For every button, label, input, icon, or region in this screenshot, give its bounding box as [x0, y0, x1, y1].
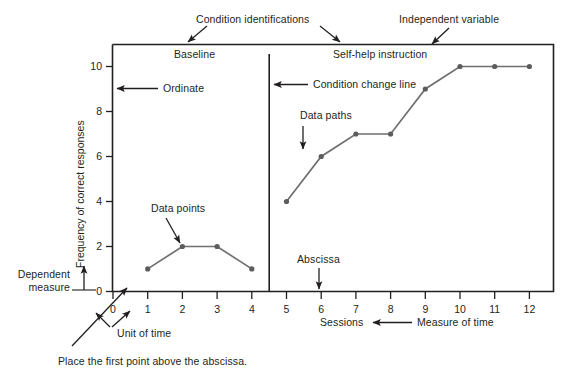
x-tick-label-11: 11 [485, 303, 505, 315]
data-point [527, 64, 532, 69]
x-tick-label-10: 10 [450, 303, 470, 315]
arrow-unit-of-time-left [96, 313, 110, 327]
annotation-condition-identifications: Condition identifications [196, 13, 309, 25]
data-point [180, 244, 185, 249]
annotation-abscissa: Abscissa [297, 253, 340, 265]
annotation-unit-of-time: Unit of time [117, 327, 171, 339]
data-point [249, 266, 254, 271]
x-tick-label-4: 4 [242, 303, 262, 315]
arrow-condition-id-right [320, 26, 340, 42]
y-tick-label-8: 8 [74, 105, 102, 117]
arrow-independent-variable [432, 28, 449, 44]
x-axis-ticks [113, 292, 529, 300]
annotation-independent-variable: Independent variable [399, 13, 499, 25]
annotation-data-paths: Data paths [300, 109, 352, 121]
arrow-data-points [166, 218, 180, 243]
x-tick-label-2: 2 [172, 303, 192, 315]
x-tick-label-12: 12 [519, 303, 539, 315]
y-tick-label-0: 0 [74, 285, 102, 297]
data-point [492, 64, 497, 69]
data-point [423, 86, 428, 91]
data-point [145, 266, 150, 271]
x-tick-label-9: 9 [415, 303, 435, 315]
phase-label-self-help-instruction: Self-help instruction [333, 48, 427, 60]
y-tick-label-10: 10 [74, 60, 102, 72]
data-point [457, 64, 462, 69]
data-point [388, 131, 393, 136]
y-tick-label-6: 6 [74, 150, 102, 162]
y-tick-label-4: 4 [74, 195, 102, 207]
dependent-measure-line-1: Dependent [18, 268, 70, 280]
phase-label-baseline: Baseline [174, 48, 215, 60]
figure-caption: Place the first point above the abscissa… [58, 355, 247, 367]
data-point [353, 131, 358, 136]
x-tick-label-7: 7 [346, 303, 366, 315]
x-axis-title: Sessions [320, 316, 363, 328]
x-tick-label-3: 3 [207, 303, 227, 315]
figure-container: Condition identifications Independent va… [0, 0, 577, 383]
data-path-baseline [148, 247, 252, 269]
x-tick-label-5: 5 [277, 303, 297, 315]
annotation-dependent-measure: Dependent measure [8, 268, 70, 293]
annotation-ordinate: Ordinate [163, 82, 204, 94]
y-axis-ticks [106, 67, 113, 292]
data-point-markers [145, 64, 532, 272]
data-point [215, 244, 220, 249]
y-tick-label-2: 2 [74, 240, 102, 252]
x-tick-label-0: 0 [103, 303, 123, 315]
dependent-measure-line-2: measure [28, 281, 70, 293]
x-tick-label-8: 8 [381, 303, 401, 315]
data-point [284, 199, 289, 204]
x-tick-label-1: 1 [138, 303, 158, 315]
annotation-measure-of-time: Measure of time [417, 316, 494, 328]
x-tick-label-6: 6 [311, 303, 331, 315]
arrow-condition-id-left [188, 26, 207, 42]
annotation-condition-change-line: Condition change line [313, 78, 416, 90]
data-point [319, 154, 324, 159]
annotation-data-points: Data points [151, 202, 205, 214]
